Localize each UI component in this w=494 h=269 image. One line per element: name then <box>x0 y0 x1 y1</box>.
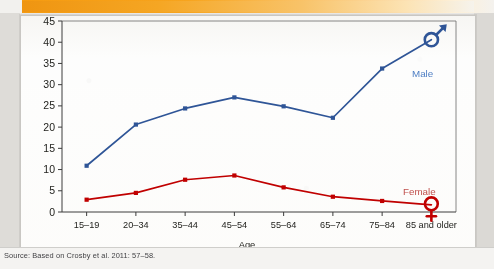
data-point-marker <box>85 164 89 168</box>
x-tick-labels: 15–1920–3435–4445–5455–6465–7475–8485 an… <box>74 220 457 230</box>
y-tick-label: 35 <box>43 57 55 69</box>
y-tick-label: 10 <box>43 163 55 175</box>
x-tick-label: 65–74 <box>320 220 346 230</box>
series-label-male: Male <box>412 68 434 79</box>
chart-axes <box>58 21 456 216</box>
y-tick-label: 30 <box>43 78 55 90</box>
data-point-marker <box>331 195 335 199</box>
orange-band-gradient <box>22 1 474 12</box>
x-tick-label: 45–54 <box>222 220 248 230</box>
x-tick-label: 35–44 <box>172 220 198 230</box>
data-point-marker <box>380 199 384 203</box>
line-chart: 051015202530354045 15–1920–3435–4445–545… <box>20 15 474 255</box>
x-tick-label: 75–84 <box>369 220 395 230</box>
y-tick-label: 45 <box>43 15 55 27</box>
data-point-marker <box>85 198 89 202</box>
y-tick-label: 15 <box>43 142 55 154</box>
x-tick-label: 55–64 <box>271 220 297 230</box>
page-edge-right <box>474 13 494 248</box>
data-point-marker <box>282 104 286 108</box>
y-tick-label: 20 <box>43 121 55 133</box>
figure-root: 051015202530354045 15–1920–3435–4445–545… <box>0 0 494 269</box>
x-tick-label: 15–19 <box>74 220 100 230</box>
y-tick-label: 0 <box>49 206 55 218</box>
source-note: Source: Based on Crosby et al. 2011: 57–… <box>4 251 155 260</box>
series-female <box>85 173 432 204</box>
y-tick-label: 25 <box>43 99 55 111</box>
page-edge-left <box>0 13 20 248</box>
y-tick-labels: 051015202530354045 <box>43 15 55 218</box>
chart-series-layer <box>85 40 432 205</box>
data-point-marker <box>380 66 384 70</box>
data-point-marker <box>134 191 138 195</box>
mars-symbol-icon <box>425 24 447 46</box>
data-point-marker <box>331 116 335 120</box>
x-tick-label: 20–34 <box>123 220 149 230</box>
data-point-marker <box>232 95 236 99</box>
series-male <box>85 40 432 168</box>
data-point-marker <box>282 185 286 189</box>
chart-svg: 051015202530354045 15–1920–3435–4445–545… <box>20 15 474 255</box>
data-point-marker <box>183 106 187 110</box>
data-point-marker <box>183 178 187 182</box>
data-point-marker <box>134 122 138 126</box>
decorative-orange-band <box>0 0 494 13</box>
series-label-female: Female <box>403 186 436 197</box>
data-point-marker <box>232 173 236 177</box>
venus-symbol-icon <box>425 197 438 220</box>
y-tick-label: 5 <box>49 184 55 196</box>
y-tick-label: 40 <box>43 36 55 48</box>
